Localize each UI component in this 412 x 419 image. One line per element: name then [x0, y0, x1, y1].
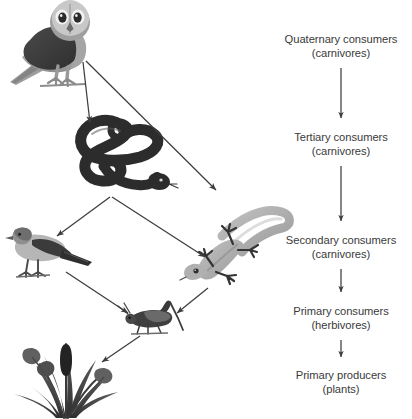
trophic-label-primary-producers-title: Primary producers: [296, 369, 387, 381]
trophic-label-tertiary-sub: (carnivores): [294, 145, 388, 159]
trophic-label-primary-producers-sub: (plants): [296, 383, 387, 397]
trophic-level-captions: Quaternary consumers (carnivores) Tertia…: [0, 0, 412, 419]
trophic-label-primary-consumers: Primary consumers (herbivores): [293, 305, 389, 332]
trophic-label-secondary: Secondary consumers (carnivores): [286, 234, 396, 261]
trophic-label-primary-consumers-title: Primary consumers: [293, 305, 389, 317]
trophic-label-primary-consumers-sub: (herbivores): [293, 319, 389, 333]
trophic-label-quaternary: Quaternary consumers (carnivores): [285, 33, 398, 60]
trophic-label-tertiary: Tertiary consumers (carnivores): [294, 131, 388, 158]
trophic-label-quaternary-sub: (carnivores): [285, 47, 398, 61]
trophic-label-primary-producers: Primary producers (plants): [296, 369, 387, 396]
trophic-label-quaternary-title: Quaternary consumers: [285, 33, 398, 45]
trophic-label-secondary-title: Secondary consumers: [286, 234, 396, 246]
trophic-label-secondary-sub: (carnivores): [286, 248, 396, 262]
food-chain-diagram: Quaternary consumers (carnivores) Tertia…: [0, 0, 412, 419]
trophic-label-tertiary-title: Tertiary consumers: [294, 131, 388, 143]
